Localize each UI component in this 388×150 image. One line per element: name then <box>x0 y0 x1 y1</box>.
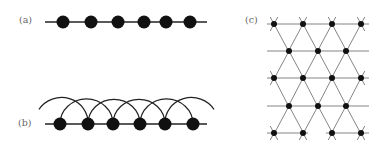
chain-a-atom <box>85 16 98 29</box>
lattice-diagonal-line <box>275 51 290 78</box>
lattice-diagonal-line <box>332 106 347 133</box>
lattice-diagonal-line <box>304 106 319 133</box>
lattice-diagonal-line <box>303 24 318 51</box>
chain-b-atom <box>187 118 200 131</box>
lattice-diagonal-line <box>346 106 361 133</box>
lattice-diagonal-line <box>318 24 333 51</box>
lattice-atom <box>286 48 292 54</box>
chain-a-atom <box>138 16 151 29</box>
lattice-diagonal-line <box>346 51 361 78</box>
lattice-atom <box>329 21 335 27</box>
lattice-diagonal-line <box>303 78 318 106</box>
lattice-diagonal-line <box>275 106 290 133</box>
lattice-diagonal-line <box>289 78 304 106</box>
lattice-diagonal-line <box>332 78 347 106</box>
lattice-atom <box>358 21 364 27</box>
lattice-atom <box>329 75 335 81</box>
lattice-diagonal-line <box>318 106 333 133</box>
lattice-atom <box>343 103 349 109</box>
diagram-canvas <box>0 0 388 150</box>
chain-b-atom <box>134 118 147 131</box>
chain-b-atom <box>82 118 95 131</box>
lattice-diagonal-line <box>347 78 362 106</box>
lattice-diagonal-line <box>274 78 289 106</box>
lattice-diagonal-line <box>289 106 304 133</box>
lattice-diagonal-line <box>318 78 333 106</box>
lattice-atom <box>300 130 306 136</box>
lattice-diagonal-line <box>332 51 347 78</box>
lattice-atom <box>329 130 335 136</box>
lattice-diagonal-line <box>347 24 362 51</box>
lattice-atom <box>315 103 321 109</box>
lattice-atom <box>315 48 321 54</box>
chain-a-atom <box>160 16 173 29</box>
lattice-atom <box>300 75 306 81</box>
chain-a-atom <box>184 16 197 29</box>
chain-b-atom <box>107 118 120 131</box>
lattice-atom <box>358 130 364 136</box>
lattice-diagonal-line <box>318 51 333 78</box>
chain-a-atom <box>57 16 70 29</box>
lattice-diagonal-line <box>289 51 304 78</box>
chain-a-atom <box>112 16 125 29</box>
lattice-atom <box>300 21 306 27</box>
lattice-atom <box>271 130 277 136</box>
lattice-atom <box>271 75 277 81</box>
chain-b-atom <box>159 118 172 131</box>
lattice-atom <box>343 48 349 54</box>
lattice-atom <box>358 75 364 81</box>
lattice-diagonal-line <box>304 51 319 78</box>
lattice-diagonal-line <box>274 24 289 51</box>
lattice-atom <box>286 103 292 109</box>
chain-b-atom <box>54 118 67 131</box>
lattice-diagonal-line <box>332 24 347 51</box>
lattice-diagonal-line <box>289 24 304 51</box>
lattice-atom <box>271 21 277 27</box>
